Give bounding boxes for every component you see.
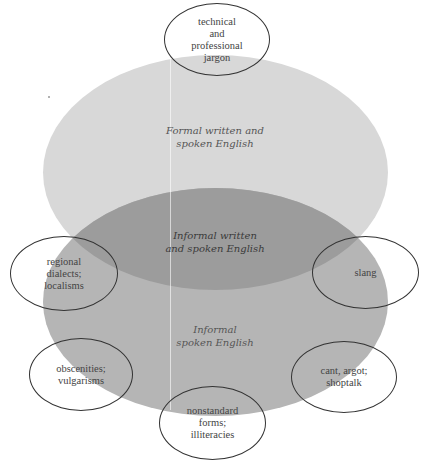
oval-nonstandard-forms-label: nonstandard forms; illiteracies [187, 405, 238, 441]
overlap-region-label: Informal written and spoken English [140, 229, 290, 255]
oval-technical-jargon-label: technical and professional jargon [191, 16, 242, 64]
oval-regional-dialects: regional dialects; localisms [10, 236, 118, 311]
oval-obscenities-label: obscenities; vulgarisms [56, 363, 106, 387]
oval-nonstandard-forms: nonstandard forms; illiteracies [159, 386, 266, 460]
oval-cant-argot-label: cant, argot; shoptalk [320, 365, 367, 389]
oval-obscenities: obscenities; vulgarisms [29, 338, 133, 411]
oval-cant-argot: cant, argot; shoptalk [291, 341, 397, 413]
english-varieties-diagram: Formal written and spoken English Inform… [0, 0, 427, 462]
stray-mark [48, 96, 50, 98]
oval-slang: slang [312, 236, 419, 309]
oval-technical-jargon: technical and professional jargon [164, 3, 270, 76]
oval-slang-label: slang [354, 267, 376, 279]
formal-region-label: Formal written and spoken English [140, 124, 290, 150]
oval-regional-dialects-label: regional dialects; localisms [44, 256, 84, 292]
scan-line [170, 45, 171, 410]
informal-region-label: Informal spoken English [140, 323, 290, 349]
